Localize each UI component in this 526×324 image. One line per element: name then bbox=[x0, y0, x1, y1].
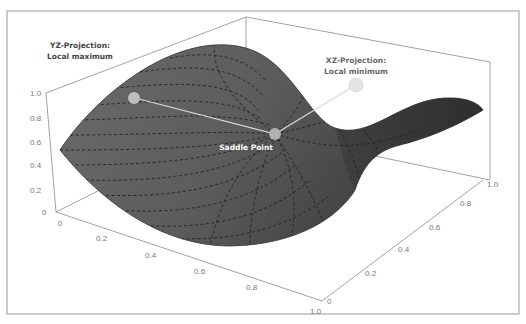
svg-text:0: 0 bbox=[42, 208, 47, 217]
svg-text:0.4: 0.4 bbox=[30, 161, 42, 170]
svg-text:0.6: 0.6 bbox=[429, 223, 441, 232]
local-minimum-marker bbox=[349, 78, 363, 92]
saddle-point-marker bbox=[269, 128, 281, 140]
xz-projection-sublabel: Local minimum bbox=[324, 67, 388, 76]
svg-text:0.6: 0.6 bbox=[194, 267, 206, 276]
svg-text:1.0: 1.0 bbox=[310, 307, 322, 316]
yz-projection-sublabel: Local maximum bbox=[47, 52, 113, 61]
y-axis-ticks: 0 0.2 0.4 0.6 0.8 1.0 bbox=[327, 180, 499, 306]
xz-projection-label: XZ-Projection: bbox=[326, 56, 386, 65]
svg-text:0.2: 0.2 bbox=[30, 186, 42, 195]
svg-text:1.0: 1.0 bbox=[30, 89, 42, 98]
saddle-surface-figure: 1.0 0.8 0.6 0.4 0.2 0 0 0.2 0.4 0.6 0.8 … bbox=[0, 0, 526, 324]
svg-text:0.4: 0.4 bbox=[398, 245, 410, 254]
yz-projection-label: YZ-Projection: bbox=[49, 41, 110, 50]
svg-text:1.0: 1.0 bbox=[487, 180, 499, 189]
svg-text:0.4: 0.4 bbox=[145, 251, 157, 260]
svg-text:0.8: 0.8 bbox=[460, 199, 472, 208]
z-axis-ticks: 1.0 0.8 0.6 0.4 0.2 0 bbox=[30, 89, 47, 217]
svg-text:0.2: 0.2 bbox=[96, 234, 108, 243]
svg-text:0.6: 0.6 bbox=[30, 138, 42, 147]
local-maximum-marker bbox=[128, 92, 140, 104]
svg-text:0: 0 bbox=[327, 297, 332, 306]
svg-text:0.8: 0.8 bbox=[30, 114, 42, 123]
svg-text:0.8: 0.8 bbox=[246, 283, 258, 292]
saddle-point-label: Saddle Point bbox=[219, 143, 273, 152]
svg-text:0: 0 bbox=[58, 219, 63, 228]
svg-text:0.2: 0.2 bbox=[365, 269, 377, 278]
